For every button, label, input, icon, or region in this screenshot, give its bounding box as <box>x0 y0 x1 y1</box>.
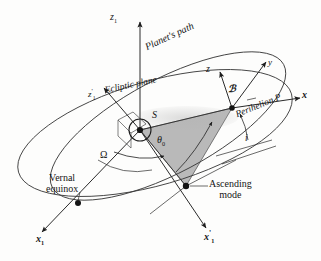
label-sun: S <box>152 110 157 121</box>
label-x1-prime-axis: x'1 <box>204 230 214 245</box>
perihelion-leader <box>247 98 256 100</box>
label-x1-axis-sub: 1 <box>41 239 44 246</box>
label-z1-axis: z1 <box>110 12 117 25</box>
label-vernal-equinox-line2: equinox <box>46 183 78 194</box>
label-x-axis: x <box>302 90 307 101</box>
label-z1-prime-mark: ' <box>92 87 93 95</box>
label-y-axis: y <box>268 58 272 67</box>
label-body: ℬ <box>228 84 236 95</box>
ascending-node-marker <box>183 183 189 189</box>
label-z-axis: z <box>206 64 210 75</box>
label-z1-prime-sub: 1 <box>93 95 96 101</box>
label-x1-axis: x1 <box>36 234 44 247</box>
orbital-elements-figure: z1 Planet's path Ecliptic plane z'1 z y … <box>0 0 321 261</box>
label-ascending-node: Ascending mode <box>209 178 252 200</box>
label-vernal-equinox-line1: Vernal <box>46 172 78 183</box>
true-anomaly-sector <box>134 106 238 186</box>
label-true-anomaly: θ0 <box>157 135 165 148</box>
label-z1-prime-axis: z'1 <box>88 88 96 102</box>
label-vernal-equinox: Vernal equinox <box>46 172 78 194</box>
label-omega: Ω <box>100 150 107 161</box>
label-z1-axis-sub: 1 <box>114 17 117 24</box>
label-ascending-node-line1: Ascending <box>209 178 252 189</box>
label-theta-sub: 0 <box>162 140 165 147</box>
label-x1-prime-sub: 1 <box>211 237 214 244</box>
label-inclination: i <box>245 134 248 144</box>
omega-angle-arc <box>98 152 164 172</box>
label-ascending-node-line2: mode <box>209 189 252 200</box>
